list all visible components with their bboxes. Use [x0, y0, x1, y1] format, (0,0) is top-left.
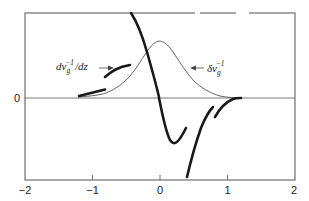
- thick-segment-4: [159, 98, 186, 143]
- thick-segment-6: [215, 98, 241, 117]
- svg-text:dvg−1/dz: dvg−1/dz: [56, 58, 89, 75]
- svg-text:δvg−1: δvg−1: [207, 59, 225, 77]
- x-tick-label: −1: [86, 184, 99, 196]
- anno-right-sub: g: [217, 68, 221, 77]
- x-tick-label: −2: [19, 184, 32, 196]
- x-tick-label: 1: [224, 184, 230, 196]
- arrowhead-right: [190, 66, 196, 71]
- x-tick-labels: −2 −1 0 1 2: [19, 184, 297, 196]
- annotation-dvg-dz: dvg−1/dz: [56, 58, 114, 75]
- x-ticks: [93, 175, 228, 180]
- y-tick-label-zero: 0: [14, 92, 20, 104]
- anno-left-sup: −1: [65, 58, 74, 67]
- x-tick-label: 2: [291, 184, 297, 196]
- anno-left-tail: /dz: [74, 60, 89, 72]
- anno-left-sub: g: [66, 66, 70, 75]
- anno-right-sup: −1: [216, 59, 225, 68]
- annotation-delta-vg: δvg−1: [190, 59, 225, 77]
- thick-segment-1: [79, 90, 105, 97]
- chart: −2 −1 0 1 2 0 dvg−1/dz δvg−1: [0, 0, 309, 201]
- thick-segment-5: [187, 107, 213, 177]
- x-tick-label: 0: [157, 184, 163, 196]
